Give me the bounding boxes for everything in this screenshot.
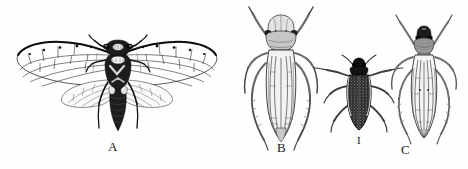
- figure-label-i: I: [357, 135, 361, 146]
- plate-artwork: [0, 0, 468, 169]
- figure-label-b: B: [277, 141, 286, 154]
- figure-label-a: A: [108, 140, 117, 153]
- insect-plate: A B I C: [0, 0, 468, 169]
- figure-label-c: C: [401, 143, 410, 156]
